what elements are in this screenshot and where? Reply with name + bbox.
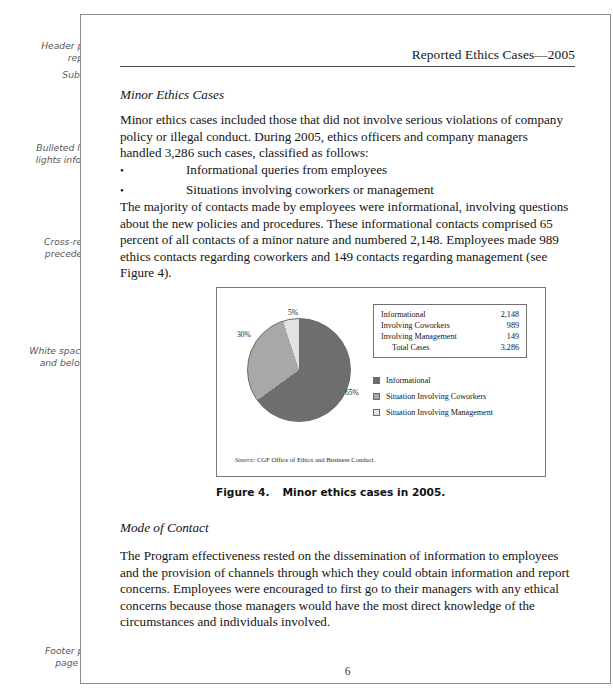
table-cell-label: Total Cases (381, 342, 429, 353)
pie-label-coworkers: 30% (237, 330, 251, 339)
table-cell-value: 149 (507, 331, 519, 342)
legend-label: Situation Involving Management (386, 406, 493, 420)
legend-label: Situation Involving Coworkers (386, 390, 486, 404)
table-cell-label: Involving Management (381, 331, 457, 342)
figure-source-label: Source: (235, 456, 255, 463)
pie-label-management: 5% (288, 308, 298, 317)
table-cell-value: 2,148 (501, 309, 519, 320)
legend-item: Situation Involving Management (373, 406, 493, 420)
pie-slices (247, 318, 351, 422)
figure-source-note: Source: CGF Office of Ethics and Busines… (235, 456, 375, 463)
list-item-label: Situations involving coworkers or manage… (186, 180, 572, 200)
pie-label-informational: 65% (345, 388, 359, 397)
table-row: Involving Coworkers 989 (381, 320, 519, 331)
page-footer: 6 (120, 665, 575, 677)
page-header: Reported Ethics Cases—2005 (120, 47, 575, 67)
subheading-mode-of-contact: Mode of Contact (120, 520, 209, 536)
bulleted-list: • Informational queries from employees •… (120, 160, 572, 200)
legend-item: Informational (373, 374, 493, 388)
paragraph-intro: Minor ethics cases included those that d… (120, 112, 572, 162)
table-row-total: Total Cases 3,286 (381, 342, 519, 353)
table-cell-value: 989 (507, 320, 519, 331)
page-content-area: Reported Ethics Cases—2005 Minor Ethics … (120, 15, 575, 683)
pie-chart: 5% 30% 65% (239, 312, 361, 434)
paragraph-majority-contacts: The majority of contacts made by employe… (120, 199, 572, 282)
legend-label: Informational (386, 374, 431, 388)
header-rule (120, 66, 575, 67)
table-cell-value: 3,286 (501, 342, 519, 353)
figure-data-table: Informational 2,148 Involving Coworkers … (373, 304, 527, 358)
table-row: Informational 2,148 (381, 309, 519, 320)
header-title: Reported Ethics Cases—2005 (120, 47, 575, 66)
legend-swatch-icon (373, 409, 380, 416)
figure-caption: Figure 4.Minor ethics cases in 2005. (216, 486, 546, 498)
legend-item: Situation Involving Coworkers (373, 390, 493, 404)
legend-swatch-icon (373, 393, 380, 400)
legend-swatch-icon (373, 377, 380, 384)
bullet-spacer (131, 180, 186, 200)
list-item-label: Informational queries from employees (186, 160, 572, 180)
paragraph-mode-of-contact: The Program effectiveness rested on the … (120, 548, 572, 631)
table-cell-label: Informational (381, 309, 426, 320)
figure-4: 5% 30% 65% Informational 2,148 Involving… (216, 287, 546, 498)
list-item: • Situations involving coworkers or mana… (120, 180, 572, 200)
figure-caption-number: Figure 4. (216, 486, 270, 498)
figure-source-text: CGF Office of Ethics and Business Conduc… (257, 456, 375, 463)
bullet-spacer (131, 160, 186, 180)
subheading-minor-ethics-cases: Minor Ethics Cases (120, 87, 224, 103)
bullet-marker-icon: • (120, 160, 131, 180)
figure-caption-text: Minor ethics cases in 2005. (283, 486, 446, 498)
figure-box: 5% 30% 65% Informational 2,148 Involving… (216, 287, 546, 477)
chart-legend: Informational Situation Involving Cowork… (373, 374, 493, 421)
list-item: • Informational queries from employees (120, 160, 572, 180)
bullet-marker-icon: • (120, 180, 131, 200)
table-cell-label: Involving Coworkers (381, 320, 450, 331)
table-row: Involving Management 149 (381, 331, 519, 342)
document-page: Reported Ethics Cases—2005 Minor Ethics … (80, 14, 611, 684)
